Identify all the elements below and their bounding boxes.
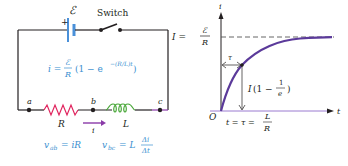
tau-label: τ bbox=[228, 54, 232, 62]
inductor-icon bbox=[106, 104, 135, 112]
svg-text:R: R bbox=[64, 70, 71, 79]
svg-text:= iR: = iR bbox=[61, 140, 81, 150]
svg-text:1: 1 bbox=[279, 79, 283, 87]
current-arrow-label: i bbox=[92, 126, 95, 135]
svg-text:t = τ =: t = τ = bbox=[226, 118, 255, 127]
y-axis-label: i bbox=[219, 2, 222, 11]
node-b-label: b bbox=[91, 97, 96, 106]
svg-text:= L: = L bbox=[119, 140, 135, 150]
resistor-label: R bbox=[57, 119, 65, 129]
node-b bbox=[91, 108, 95, 112]
node-a-label: a bbox=[27, 97, 32, 106]
svg-text:(1 −: (1 − bbox=[253, 84, 273, 94]
current-curve bbox=[221, 37, 332, 111]
y-axis-arrow-icon bbox=[219, 12, 224, 19]
svg-text:ab: ab bbox=[50, 144, 58, 151]
svg-text:bc: bc bbox=[108, 144, 116, 151]
time-constant-label: t = τ = L R bbox=[226, 112, 272, 133]
circuit: + ℰ Switch i = ℰ R (1 − e −(R/L)t ) bbox=[18, 4, 168, 155]
switch-label: Switch bbox=[97, 8, 128, 18]
node-a bbox=[27, 108, 31, 112]
current-vs-time-graph: i t O I = ℰ R τ I (1 − 1 e ) bbox=[171, 2, 341, 133]
svg-text:I: I bbox=[247, 84, 252, 94]
asymptote-lhs: I = bbox=[171, 32, 186, 42]
svg-text:Δi: Δi bbox=[141, 136, 149, 144]
svg-text:ℰ: ℰ bbox=[65, 58, 71, 67]
inductor-label: L bbox=[122, 119, 129, 129]
svg-text:−(R/L)t: −(R/L)t bbox=[110, 60, 133, 67]
svg-text:): ) bbox=[133, 64, 137, 74]
x-axis-label: t bbox=[337, 107, 341, 116]
svg-text:v: v bbox=[44, 140, 49, 150]
svg-text:e: e bbox=[278, 90, 282, 98]
svg-text:): ) bbox=[287, 84, 291, 94]
vab-equation: v ab = iR bbox=[44, 140, 81, 151]
node-c bbox=[158, 108, 162, 112]
svg-text:Δt: Δt bbox=[141, 147, 150, 155]
asymptote-den: R bbox=[201, 38, 208, 47]
origin-label: O bbox=[209, 112, 217, 122]
svg-text:(1 − e: (1 − e bbox=[75, 64, 103, 74]
svg-text:i =: i = bbox=[48, 64, 61, 74]
resistor-icon bbox=[44, 105, 78, 115]
battery-plus-sign: + bbox=[61, 17, 69, 27]
x-axis-arrow-icon bbox=[327, 109, 334, 114]
tau-value-label: I (1 − 1 e ) bbox=[247, 79, 291, 98]
current-equation: i = ℰ R (1 − e −(R/L)t ) bbox=[48, 58, 137, 79]
emf-label: ℰ bbox=[69, 4, 77, 17]
svg-text:R: R bbox=[263, 124, 270, 133]
rl-circuit-diagram: + ℰ Switch i = ℰ R (1 − e −(R/L)t ) bbox=[0, 0, 348, 166]
asymptote-num: ℰ bbox=[202, 26, 208, 35]
svg-text:L: L bbox=[264, 112, 270, 121]
node-c-label: c bbox=[158, 97, 163, 106]
svg-text:v: v bbox=[102, 140, 107, 150]
vbc-equation: v bc = L Δi Δt bbox=[102, 136, 153, 155]
switch-icon[interactable] bbox=[99, 24, 122, 32]
battery-icon bbox=[68, 18, 74, 42]
